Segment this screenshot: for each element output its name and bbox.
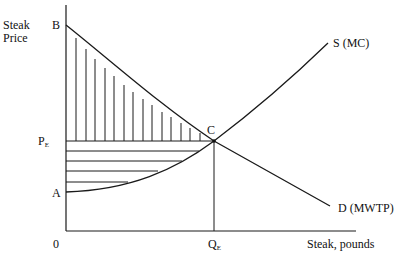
quantity-equilibrium-label: QE <box>208 237 221 252</box>
demand-curve <box>66 25 330 206</box>
point-c-label: C <box>207 123 215 137</box>
equilibrium-point <box>212 139 216 143</box>
origin-label: 0 <box>53 237 59 251</box>
consumer-surplus-hatch <box>76 38 200 141</box>
y-axis-label-line1: Steak <box>3 18 30 32</box>
y-axis-label-line2: Price <box>3 31 28 45</box>
point-b-label: B <box>52 18 60 32</box>
price-equilibrium-label: PE <box>38 134 49 149</box>
point-a-label: A <box>52 186 61 200</box>
producer-surplus-hatch <box>66 151 199 182</box>
supply-curve-label: S (MC) <box>333 36 369 50</box>
demand-curve-label: D (MWTP) <box>338 201 394 215</box>
x-axis-label: Steak, pounds <box>307 237 375 251</box>
surplus-diagram: Steak Price B A C PE QE 0 Steak, pounds … <box>0 0 400 260</box>
